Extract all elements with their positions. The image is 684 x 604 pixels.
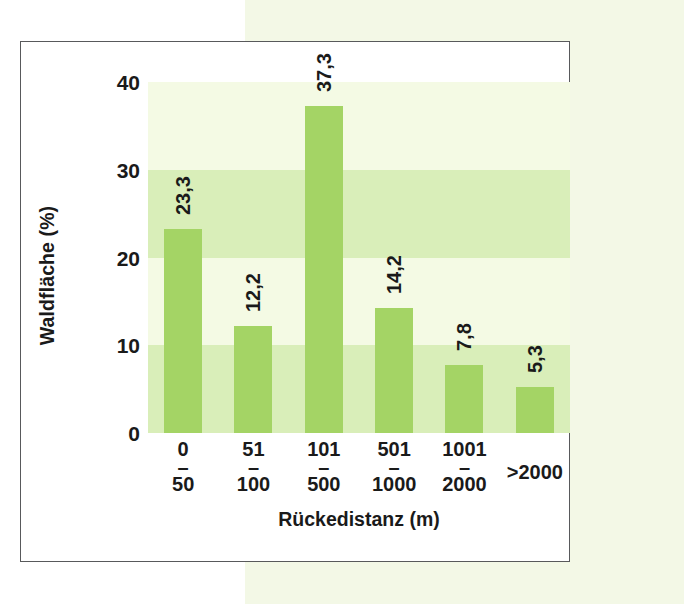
x-category-line-bottom: 50 [148, 474, 218, 496]
x-category-range-dash: – [218, 462, 288, 473]
bar-value-label: 12,2 [234, 302, 273, 322]
y-tick-label-0: 0 [94, 423, 140, 444]
bar-series: 23,312,237,314,27,85,3 [148, 78, 570, 433]
x-axis-category-label: 101–500 [289, 439, 359, 495]
x-category-line-bottom: 1000 [359, 474, 429, 496]
bar-value-label-text: 5,3 [525, 345, 545, 373]
bar-value-label: 37,3 [304, 82, 343, 102]
x-category-line-bottom: 100 [218, 474, 288, 496]
y-tick-label-10: 10 [94, 335, 140, 356]
x-axis-tick-labels: 0–5051–100101–500501–10001001–2000>2000 [148, 439, 570, 511]
x-category-line-bottom: 500 [289, 474, 359, 496]
bar-value-label-text: 23,3 [173, 176, 193, 215]
bar-slot: 37,3 [289, 78, 359, 433]
bar-value-label: 14,2 [375, 284, 414, 304]
bar-slot: 5,3 [500, 78, 570, 433]
bar[interactable]: 23,3 [164, 229, 202, 433]
bar-value-label: 5,3 [521, 363, 549, 383]
x-axis-category-label: 1001–2000 [429, 439, 499, 495]
y-axis-title-text: Waldfläche (%) [37, 205, 60, 344]
x-category-line-bottom: 2000 [429, 474, 499, 496]
bar-value-label-text: 7,8 [454, 323, 474, 351]
x-axis-category-label: >2000 [500, 439, 570, 484]
x-axis-category-label: 501–1000 [359, 439, 429, 495]
chart-page: Waldfläche (%) 0 10 20 30 40 23,312,237,… [0, 0, 684, 604]
y-axis-tick-labels: 0 10 20 30 40 [78, 0, 140, 604]
x-category-range-dash: – [289, 462, 359, 473]
bar[interactable]: 5,3 [516, 387, 554, 434]
bar[interactable]: 37,3 [305, 106, 343, 433]
x-category-range-dash: – [359, 462, 429, 473]
bar[interactable]: 7,8 [445, 365, 483, 433]
y-tick-label-20: 20 [94, 248, 140, 269]
x-axis-title: Rückedistanz (m) [148, 508, 570, 531]
bar-value-label-text: 14,2 [384, 255, 404, 294]
x-category-range-dash: – [148, 462, 218, 473]
x-category-line-top: >2000 [500, 462, 570, 484]
bar[interactable]: 14,2 [375, 308, 413, 433]
x-axis-category-label: 0–50 [148, 439, 218, 495]
y-tick-label-40: 40 [94, 72, 140, 93]
bar[interactable]: 12,2 [234, 326, 272, 433]
bar-slot: 23,3 [148, 78, 218, 433]
y-axis-title: Waldfläche (%) [28, 150, 68, 400]
y-tick-label-30: 30 [94, 160, 140, 181]
plot-area: 23,312,237,314,27,85,3 [148, 78, 570, 433]
bar-slot: 7,8 [429, 78, 499, 433]
bar-slot: 12,2 [218, 78, 288, 433]
bar-value-label: 7,8 [451, 341, 479, 361]
bar-value-label-text: 37,3 [314, 53, 334, 92]
x-axis-category-label: 51–100 [218, 439, 288, 495]
bar-value-label-text: 12,2 [243, 273, 263, 312]
bar-value-label: 23,3 [164, 205, 203, 225]
bar-slot: 14,2 [359, 78, 429, 433]
x-category-range-dash: – [429, 462, 499, 473]
